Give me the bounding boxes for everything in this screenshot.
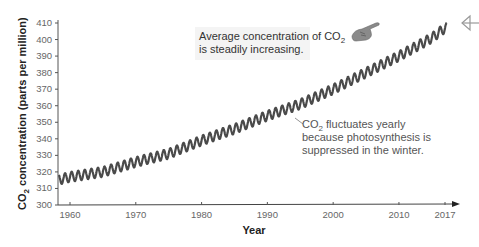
y-tick-label: 410 xyxy=(36,17,52,28)
x-tick-label: 1990 xyxy=(257,209,278,220)
pointing-hand-icon xyxy=(352,23,379,41)
annotation-fluctuates: CO2 fluctuates yearly because photosynth… xyxy=(302,118,434,156)
y-tick-label: 390 xyxy=(36,50,52,61)
x-axis-arrow-icon xyxy=(452,201,460,207)
annotation-increasing: Average concentration of CO2 is steadily… xyxy=(199,30,348,55)
y-tick-label: 340 xyxy=(36,133,52,144)
y-axis-title: CO2 concentration (parts per million) xyxy=(16,17,31,210)
y-tick-label: 360 xyxy=(36,100,52,111)
x-axis-title: Year xyxy=(242,224,266,236)
y-tick-label: 330 xyxy=(36,149,52,160)
x-tick-label: 2010 xyxy=(388,209,409,220)
co2-chart: 300310320330340350360370380390400410 196… xyxy=(0,0,479,247)
x-axis: 1960197019801990200020102017 xyxy=(58,201,460,220)
x-tick-label: 1960 xyxy=(59,209,80,220)
y-tick-label: 350 xyxy=(36,116,52,127)
x-tick-label: 2000 xyxy=(323,209,344,220)
y-tick-label: 300 xyxy=(36,199,52,210)
x-tick-label: 2017 xyxy=(434,209,455,220)
back-arrow-icon[interactable] xyxy=(462,16,479,30)
y-tick-label: 310 xyxy=(36,182,52,193)
y-axis: 300310320330340350360370380390400410 xyxy=(36,17,58,210)
y-tick-label: 400 xyxy=(36,34,52,45)
y-tick-label: 380 xyxy=(36,67,52,78)
x-tick-label: 1980 xyxy=(191,209,212,220)
y-tick-label: 320 xyxy=(36,166,52,177)
y-tick-label: 370 xyxy=(36,83,52,94)
x-tick-label: 1970 xyxy=(125,209,146,220)
